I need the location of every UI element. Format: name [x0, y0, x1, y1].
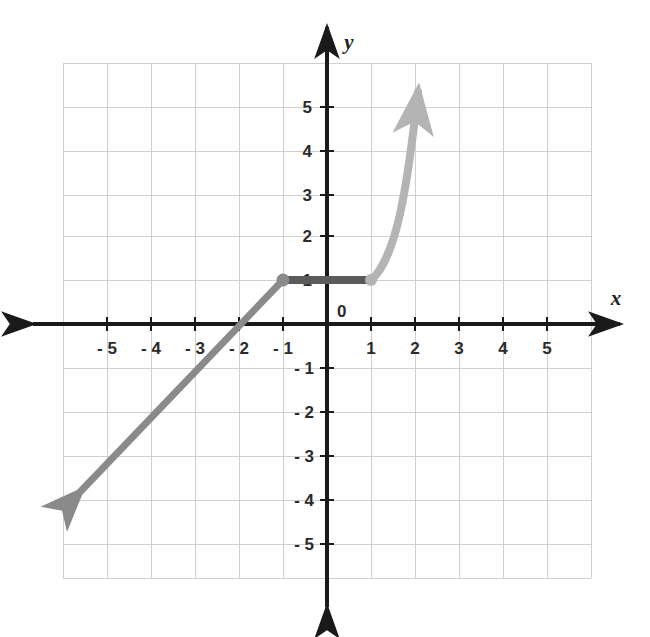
y-tick-label-2: 2 — [303, 227, 312, 246]
endpoint-dot-right — [365, 274, 377, 286]
x-tick-label-4: 4 — [498, 339, 508, 358]
y-tick-label-5: 5 — [303, 98, 312, 117]
x-axis-label: x — [610, 286, 622, 310]
y-tick-label-3: 3 — [303, 186, 312, 205]
y-tick-label--3: - 3 — [294, 447, 314, 466]
graph-canvas: - 5 - 4 - 3 - 2 - 1 1 2 3 4 5 5 4 3 2 1 … — [0, 0, 650, 637]
y-tick-label-4: 4 — [303, 142, 313, 161]
endpoint-dot-left — [277, 274, 290, 287]
x-tick-label-1: 1 — [366, 339, 375, 358]
x-tick-label-5: 5 — [542, 339, 551, 358]
x-tick-label--3: - 3 — [185, 339, 205, 358]
x-tick-label--1: - 1 — [273, 339, 293, 358]
y-tick-label--5: - 5 — [294, 535, 314, 554]
y-tick-label--4: - 4 — [294, 491, 314, 510]
y-tick-label--1: - 1 — [294, 359, 314, 378]
x-tick-label--4: - 4 — [141, 339, 161, 358]
x-tick-label--5: - 5 — [97, 339, 117, 358]
x-tick-label--2: - 2 — [229, 339, 249, 358]
origin-label: 0 — [337, 302, 346, 321]
coordinate-plane: - 5 - 4 - 3 - 2 - 1 1 2 3 4 5 5 4 3 2 1 … — [0, 0, 650, 637]
x-tick-label-3: 3 — [454, 339, 463, 358]
x-tick-label-2: 2 — [410, 339, 419, 358]
y-tick-label--2: - 2 — [294, 403, 314, 422]
